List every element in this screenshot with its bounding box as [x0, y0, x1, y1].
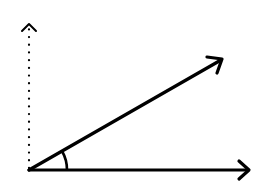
angle-arc	[62, 151, 67, 170]
vector-angle-diagram	[0, 0, 259, 191]
diagram-svg	[0, 0, 259, 191]
diagonal-vector	[29, 60, 221, 170]
